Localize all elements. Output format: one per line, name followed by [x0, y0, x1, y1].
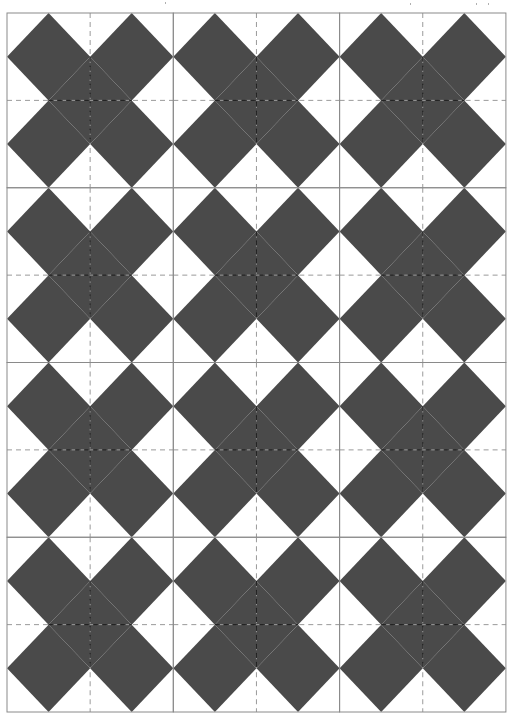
scan-speck — [410, 3, 411, 5]
scan-speck — [165, 2, 166, 4]
scan-speck — [476, 3, 477, 5]
scan-speck — [488, 3, 489, 5]
quilt-pattern-canvas — [0, 0, 518, 717]
